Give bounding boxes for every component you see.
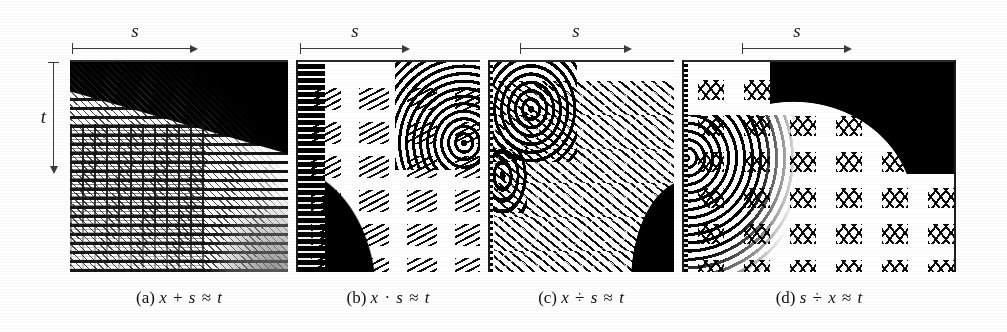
- s-axis-label: s: [131, 20, 138, 42]
- panel-c-caption-relation: ≈: [602, 288, 615, 307]
- panel-d-raster: [682, 60, 956, 272]
- panel-d-caption-operator: ÷: [811, 288, 824, 307]
- panel-d-top-rule: [682, 60, 956, 62]
- panel-a-caption-operator: +: [171, 288, 185, 307]
- panel-a-grid-texture: [70, 124, 205, 272]
- panel-d-caption-rhs: t: [858, 288, 863, 307]
- s-axis-panel-b: s: [300, 22, 410, 56]
- s-axis-line: [72, 48, 191, 49]
- panel-d-right-rule: [954, 60, 956, 272]
- panel-a-caption-lhs2: s: [189, 288, 196, 307]
- panel-c-caption-tag: (c): [538, 288, 557, 307]
- s-axis-arrowhead-icon: [844, 45, 852, 53]
- panel-d-caption-tag: (d): [776, 288, 796, 307]
- t-axis-line: [53, 62, 54, 166]
- panel-d-caption-lhs2: x: [828, 288, 836, 307]
- panel-c-caption: (c) x ÷ s ≈ t: [488, 288, 674, 308]
- s-axis-line: [300, 48, 403, 49]
- panel-b-caption-relation: ≈: [407, 288, 420, 307]
- s-axis-label: s: [351, 20, 358, 42]
- panel-a-raster: [70, 60, 288, 272]
- panel-a-caption-relation: ≈: [200, 288, 213, 307]
- panel-a-caption: (a) x + s ≈ t: [70, 288, 288, 308]
- panel-c-caption-operator: ÷: [573, 288, 586, 307]
- panel-b-plot: [296, 60, 480, 272]
- s-axis-arrowhead-icon: [624, 45, 632, 53]
- panel-c-plot: [488, 60, 674, 272]
- t-axis-arrowhead-icon: [50, 166, 58, 174]
- panel-a-top-rule: [70, 60, 288, 62]
- panel-a-gray-shading: [188, 183, 288, 272]
- panel-d-caption-lhs1: s: [800, 288, 807, 307]
- panel-b-left-rule: [296, 60, 298, 272]
- panel-b-caption-rhs: t: [425, 288, 430, 307]
- s-axis-panel-d: s: [742, 22, 852, 56]
- panel-c-top-rule: [488, 60, 674, 62]
- s-axis-panel-a: s: [72, 22, 198, 56]
- panel-a-caption-rhs: t: [217, 288, 222, 307]
- panel-b-whorl-texture: [395, 60, 480, 170]
- panel-a-caption-tag: (a): [136, 288, 155, 307]
- panel-c-raster: [488, 60, 674, 272]
- s-axis-label: s: [793, 20, 800, 42]
- panel-b-top-rule: [296, 60, 480, 62]
- panel-a-caption-lhs1: x: [159, 288, 167, 307]
- panel-d-left-rule: [682, 60, 684, 272]
- s-axis-line: [742, 48, 845, 49]
- s-axis-arrowhead-icon: [190, 45, 198, 53]
- t-axis-panel-a: t: [28, 62, 62, 174]
- panel-b-caption-tag: (b): [347, 288, 367, 307]
- s-axis-label: s: [572, 20, 579, 42]
- panel-c-caption-lhs2: s: [591, 288, 598, 307]
- panel-d-plot: [682, 60, 956, 272]
- t-axis-label: t: [41, 106, 46, 128]
- panel-d-caption-relation: ≈: [840, 288, 853, 307]
- s-axis-arrowhead-icon: [402, 45, 410, 53]
- figure-root: t s (a) x + s ≈ t s: [0, 0, 1007, 332]
- panel-b-caption-operator: ·: [382, 288, 392, 307]
- panel-b-caption-lhs1: x: [371, 288, 379, 307]
- s-axis-line: [520, 48, 625, 49]
- panel-d-dotted-fan: [682, 115, 808, 272]
- panel-b-caption-lhs2: s: [396, 288, 403, 307]
- panel-b-raster: [296, 60, 480, 272]
- panel-d-caption: (d) s ÷ x ≈ t: [682, 288, 956, 308]
- s-axis-panel-c: s: [520, 22, 632, 56]
- panel-b-caption: (b) x · s ≈ t: [296, 288, 480, 308]
- panel-a-plot: [70, 60, 288, 272]
- panel-c-caption-lhs1: x: [561, 288, 569, 307]
- panel-c-left-rule: [488, 60, 490, 272]
- panel-c-caption-rhs: t: [619, 288, 624, 307]
- panel-c-dark-wedge: [588, 141, 674, 272]
